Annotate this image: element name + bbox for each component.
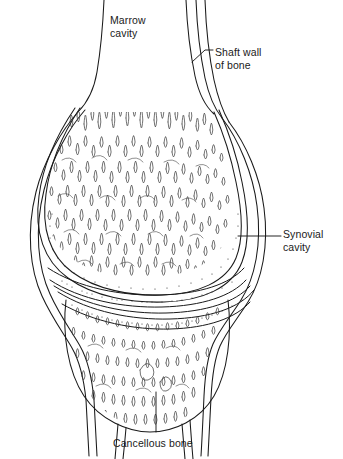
upper-articular-cartilage	[48, 268, 246, 307]
upper-epiphysis-trabeculae	[48, 101, 229, 296]
lower-cortical-shell	[65, 300, 230, 432]
leader-lines	[156, 50, 281, 432]
label-shaft-wall: Shaft wall of bone	[215, 46, 262, 71]
upper-bone-shaft	[78, 0, 229, 122]
label-synovial-cavity: Synovial cavity	[283, 228, 324, 253]
synovial-cavity	[54, 286, 250, 313]
label-cancellous-bone: Cancellous bone	[113, 437, 193, 450]
cortical-bone-shell	[38, 108, 248, 302]
cartilage-stipple-upper	[61, 280, 232, 302]
label-marrow-cavity: Marrow cavity	[110, 14, 146, 39]
bone-joint-diagram: Marrow cavity Shaft wall of bone Synovia…	[0, 0, 343, 459]
